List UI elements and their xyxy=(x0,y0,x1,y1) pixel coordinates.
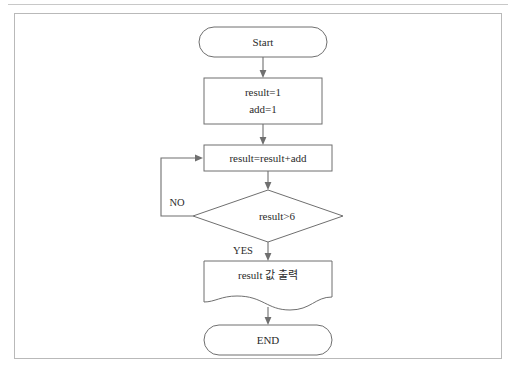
output-label: result 값 출력 xyxy=(238,269,298,281)
end-label: END xyxy=(257,334,280,346)
node-end: END xyxy=(204,325,332,355)
decision-label: result>6 xyxy=(259,210,296,222)
connector-yes-to-output: YES xyxy=(233,242,271,261)
connector-output-to-end xyxy=(265,307,272,325)
yes-branch-label: YES xyxy=(233,245,253,256)
init-label-line-1: result=1 xyxy=(245,86,281,98)
no-branch-label: NO xyxy=(169,197,185,208)
node-decision: result>6 xyxy=(193,190,343,242)
connector-accum-to-decision xyxy=(265,171,272,190)
init-label-line-2: add=1 xyxy=(249,103,277,115)
node-start: Start xyxy=(199,27,327,57)
page-root: Start result=1 add=1 result=result xyxy=(0,0,516,373)
node-accumulate: result=result+add xyxy=(204,145,332,171)
accumulate-label: result=result+add xyxy=(229,152,307,164)
top-horizontal-rule xyxy=(8,4,508,5)
connector-init-to-accum xyxy=(260,124,267,145)
node-init: result=1 add=1 xyxy=(204,78,322,124)
figure-frame: Start result=1 add=1 result=result xyxy=(14,13,502,359)
connector-no-loop: NO xyxy=(161,155,203,216)
connector-start-to-init xyxy=(260,57,267,78)
flowchart-canvas: Start result=1 add=1 result=result xyxy=(15,14,501,358)
node-output: result 값 출력 xyxy=(204,261,332,310)
start-label: Start xyxy=(253,36,274,48)
